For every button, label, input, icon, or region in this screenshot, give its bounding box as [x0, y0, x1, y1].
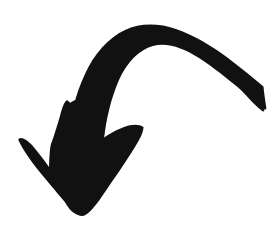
arrow-image-canvas: Curved arrow pointing down-left A thick …: [0, 0, 279, 231]
curved-arrow-graphic: Curved arrow pointing down-left A thick …: [0, 0, 279, 231]
